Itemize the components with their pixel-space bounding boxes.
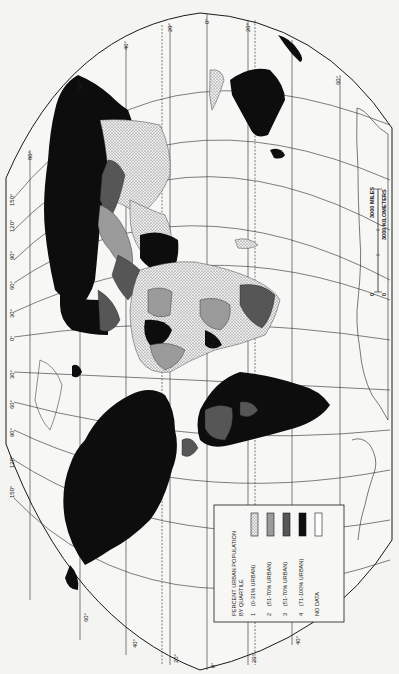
svg-text:90°: 90° bbox=[9, 427, 15, 437]
svg-text:120°: 120° bbox=[9, 219, 15, 232]
svg-text:150°: 150° bbox=[9, 485, 15, 498]
svg-text:30°: 30° bbox=[9, 308, 15, 318]
scale-zero-miles: 0 bbox=[369, 293, 375, 296]
svg-text:20°: 20° bbox=[173, 653, 179, 663]
svg-text:20°: 20° bbox=[167, 22, 173, 32]
svg-text:3: 3 bbox=[282, 613, 288, 616]
svg-text:90°: 90° bbox=[9, 250, 15, 260]
svg-text:2: 2 bbox=[266, 613, 272, 616]
svg-text:(51-70% URBAN): (51-70% URBAN) bbox=[266, 562, 272, 606]
legend: PERCENT URBAN POPULATION BY QUARTILE 1 (… bbox=[214, 505, 344, 622]
svg-text:20°: 20° bbox=[245, 22, 251, 32]
svg-text:0°: 0° bbox=[210, 662, 216, 668]
svg-text:0°: 0° bbox=[204, 18, 210, 24]
svg-text:40°: 40° bbox=[295, 635, 301, 645]
svg-text:120°: 120° bbox=[9, 455, 15, 468]
svg-text:20°: 20° bbox=[251, 653, 257, 663]
svg-text:NO DATA: NO DATA bbox=[314, 592, 320, 616]
svg-text:60°: 60° bbox=[9, 280, 15, 290]
svg-text:30°: 30° bbox=[9, 369, 15, 379]
svg-text:60°: 60° bbox=[83, 612, 89, 622]
svg-text:4: 4 bbox=[298, 613, 304, 616]
svg-text:60°: 60° bbox=[77, 80, 83, 90]
legend-title-line1: PERCENT URBAN POPULATION bbox=[231, 531, 237, 616]
scale-zero-km: 0 bbox=[381, 293, 387, 296]
scale-miles-label: 3000 MILES bbox=[369, 187, 375, 218]
world-urban-population-map: 150° 120° 90° 60° 30° 0° 30° 60° 90° 120… bbox=[0, 0, 399, 674]
svg-text:0°: 0° bbox=[9, 335, 15, 341]
svg-text:40°: 40° bbox=[132, 638, 138, 648]
legend-title-line2: BY QUARTILE bbox=[238, 579, 244, 616]
svg-text:60°: 60° bbox=[9, 399, 15, 409]
svg-text:1: 1 bbox=[250, 613, 256, 616]
svg-text:150°: 150° bbox=[9, 193, 15, 206]
svg-text:60°: 60° bbox=[335, 75, 341, 85]
scale-km-label: 3000 KILOMETERS bbox=[381, 189, 387, 240]
svg-text:(71-100% URBAN): (71-100% URBAN) bbox=[298, 559, 304, 606]
svg-text:80°: 80° bbox=[27, 150, 33, 160]
svg-text:(0-31% URBAN): (0-31% URBAN) bbox=[250, 565, 256, 606]
svg-text:(51-70% URBAN): (51-70% URBAN) bbox=[282, 562, 288, 606]
svg-text:40°: 40° bbox=[123, 40, 129, 50]
